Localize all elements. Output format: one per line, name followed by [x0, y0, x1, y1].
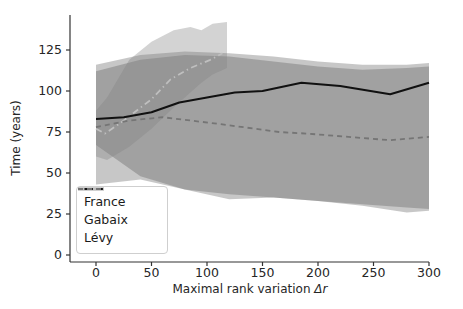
x-axis-label-symbol: Δr: [314, 282, 327, 296]
legend-item-france: France: [84, 193, 159, 211]
legend-label: Gabaix: [84, 211, 128, 229]
y-tick-label: 25: [46, 206, 62, 221]
legend-label: Lévy: [84, 229, 113, 247]
x-axis-label: Maximal rank variation Δr: [70, 282, 430, 296]
y-tick-label: 0: [54, 247, 62, 262]
y-tick-label: 100: [38, 83, 62, 98]
x-tick-label: 50: [144, 265, 160, 280]
legend-label: France: [84, 193, 126, 211]
y-tick-label: 125: [38, 42, 62, 57]
x-tick-label: 300: [417, 265, 441, 280]
legend-item-levy: Lévy: [84, 229, 159, 247]
plot-area: 0501001502002503000255075100125: [0, 0, 463, 309]
legend-item-gabaix: Gabaix: [84, 211, 159, 229]
legend-line-dashed: [77, 187, 105, 191]
y-tick-label: 75: [46, 124, 62, 139]
y-axis-label: Time (years): [9, 83, 23, 193]
x-tick-label: 100: [195, 265, 219, 280]
x-tick-label: 0: [92, 265, 100, 280]
y-tick-label: 50: [46, 165, 62, 180]
legend-box: France Gabaix Lévy: [76, 186, 168, 254]
x-tick-label: 250: [362, 265, 386, 280]
line-chart-figure: 0501001502002503000255075100125 Time (ye…: [0, 0, 463, 309]
x-axis-label-text: Maximal rank variation: [172, 282, 314, 296]
x-tick-label: 200: [306, 265, 330, 280]
x-tick-label: 150: [251, 265, 275, 280]
